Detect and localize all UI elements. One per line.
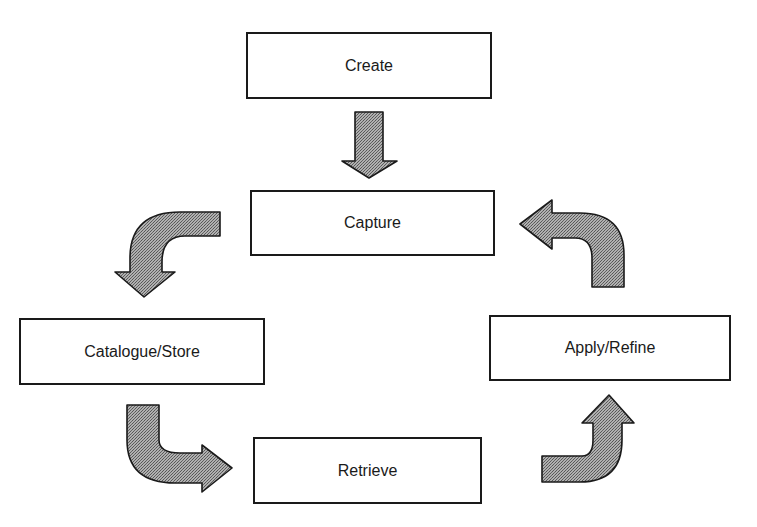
node-apply-refine-label: Apply/Refine bbox=[565, 339, 656, 357]
arrow-retrieve-to-apply-icon bbox=[542, 395, 634, 482]
node-create: Create bbox=[246, 32, 492, 99]
arrow-create-to-capture-icon bbox=[342, 112, 397, 178]
arrow-capture-to-catalogue-icon bbox=[115, 212, 220, 297]
node-apply-refine: Apply/Refine bbox=[489, 315, 731, 381]
node-capture-label: Capture bbox=[344, 214, 401, 232]
arrow-apply-to-capture-icon bbox=[520, 200, 624, 287]
node-catalogue-store-label: Catalogue/Store bbox=[84, 343, 200, 361]
node-catalogue-store: Catalogue/Store bbox=[19, 318, 265, 385]
node-retrieve: Retrieve bbox=[253, 437, 482, 504]
node-retrieve-label: Retrieve bbox=[338, 462, 398, 480]
node-capture: Capture bbox=[250, 190, 495, 256]
arrow-catalogue-to-retrieve-icon bbox=[127, 405, 232, 492]
node-create-label: Create bbox=[345, 57, 393, 75]
